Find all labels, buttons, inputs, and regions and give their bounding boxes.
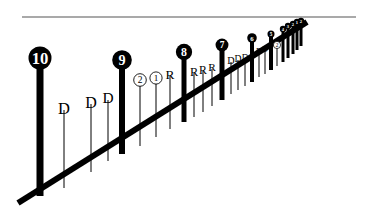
marker-label-9-4: 9 (118, 52, 125, 68)
marker-label-2-20: 2 (276, 42, 279, 48)
marker-label-R-7: R (166, 67, 175, 82)
figure-canvas: 10DDD921R8RRR7DDD6DD5243212 (0, 0, 376, 218)
marker-label-10-0: 10 (32, 49, 49, 68)
marker-label-D-14: D (235, 53, 242, 64)
marker-label-D-17: D (256, 47, 262, 56)
marker-label-1-6: 1 (154, 73, 159, 83)
marker-label-D-1: D (58, 99, 70, 118)
marker-label-R-11: R (208, 61, 216, 73)
marker-label-D-3: D (102, 89, 113, 106)
marker-label-D-15: D (242, 52, 249, 62)
marker-label-D-2: D (85, 94, 97, 111)
marker-label-R-9: R (190, 65, 199, 79)
markers-group: 10DDD921R8RRR7DDD6DD5243212 (29, 18, 305, 118)
marker-label-8-8: 8 (181, 45, 187, 59)
marker-label-7-12: 7 (220, 40, 225, 50)
marker-label-D-18: D (262, 45, 268, 54)
marker-label-6-16: 6 (250, 35, 254, 42)
slanted-baseline-diagram: 10DDD921R8RRR7DDD6DD5243212 (0, 0, 376, 218)
marker-label-R-10: R (199, 63, 207, 77)
marker-label-2-5: 2 (138, 75, 143, 85)
marker-label-5-19: 5 (270, 31, 273, 37)
